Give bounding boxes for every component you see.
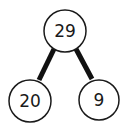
number-bond-diagram: 29 20 9 [0, 0, 130, 136]
connector-left [39, 49, 54, 80]
part-node-right: 9 [79, 80, 119, 120]
part-label-right: 9 [94, 90, 105, 110]
connector-right [76, 49, 92, 79]
part-node-left: 20 [9, 80, 51, 122]
whole-label: 29 [54, 21, 76, 41]
whole-node: 29 [44, 10, 86, 52]
part-label-left: 20 [19, 91, 41, 111]
